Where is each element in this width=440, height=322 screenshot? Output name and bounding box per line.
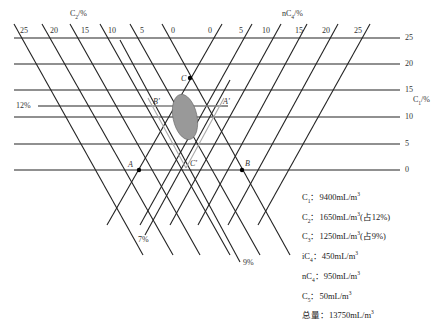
composition-legend: C1：9400mL/m3 C2：1650mL/m3(占12%) C3：1250m… xyxy=(302,188,390,322)
point-c-label: C xyxy=(181,75,186,83)
c1-tick: 25 xyxy=(405,34,413,42)
legend-item-total: 总量：13750mL/m3 xyxy=(302,306,390,322)
nc4-tick: 25 xyxy=(354,27,362,35)
c2-axis-label: C2/% xyxy=(70,10,87,20)
estimate-ellipse xyxy=(168,92,201,142)
point-a-label: A xyxy=(128,161,133,169)
c2-marker-label: 9% xyxy=(243,259,254,267)
nc4-tick: 20 xyxy=(322,27,330,35)
nc4-tick: 15 xyxy=(295,27,303,35)
c2-tick: 15 xyxy=(81,27,89,35)
c2-tick: 25 xyxy=(20,27,28,35)
point-b-label: B xyxy=(245,160,250,168)
c1-tick: 0 xyxy=(405,166,409,174)
c2-tick: 5 xyxy=(140,27,144,35)
legend-item: C2：1650mL/m3(占12%) xyxy=(302,208,390,228)
c2-tick: 10 xyxy=(108,27,116,35)
point-b-prime-label: B' xyxy=(153,98,160,106)
c1-tick: 15 xyxy=(405,86,413,94)
nc4-axis-label: nC4/% xyxy=(282,10,303,20)
c2-tick: 20 xyxy=(50,27,58,35)
c1-marker-label: 12% xyxy=(16,102,31,110)
legend-item: C5：50mL/m3 xyxy=(302,287,390,307)
c2-grid-lines xyxy=(14,24,290,262)
point-c-prime-label: C' xyxy=(190,160,197,168)
c1-axis-label: C1/% xyxy=(413,96,430,106)
legend-item: nC4：950mL/m3 xyxy=(302,267,390,287)
nc4-tick: 10 xyxy=(262,27,270,35)
c1-tick: 5 xyxy=(405,140,409,148)
nc4-tick: 5 xyxy=(239,27,243,35)
legend-item: C1：9400mL/m3 xyxy=(302,188,390,208)
c2-tick: 0 xyxy=(171,27,175,35)
point-a-prime-label: A' xyxy=(223,98,230,106)
nc4-marker-label: 7% xyxy=(138,236,149,244)
c1-tick: 20 xyxy=(405,60,413,68)
c1-tick: 10 xyxy=(405,113,413,121)
legend-item: iC4：450mL/m3 xyxy=(302,247,390,267)
legend-item: C3：1250mL/m3(占9%) xyxy=(302,227,390,247)
nc4-tick: 0 xyxy=(208,27,212,35)
